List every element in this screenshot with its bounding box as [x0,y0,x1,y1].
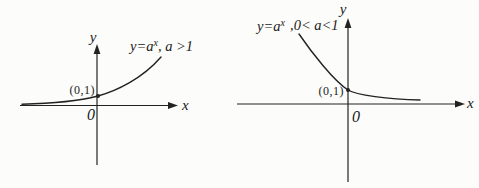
right-intercept-point [346,88,350,92]
left-y-axis-label: y [88,29,97,45]
left-x-axis-arrow-icon [168,102,178,109]
left-intercept-label: (0,1) [70,83,96,97]
right-origin-label: 0 [352,108,360,125]
right-x-axis-label: x [466,95,474,111]
figure-canvas: y x 0 (0,1) y=ax, a >1 y x 0 [0,0,479,188]
right-exp-decay-curve [299,34,420,100]
left-origin-label: 0 [87,106,95,123]
right-y-axis-label: y [338,1,347,17]
right-x-axis-arrow-icon [455,101,465,108]
left-exp-growth-curve [22,57,161,104]
right-y-axis-arrow-icon [345,18,352,28]
left-y-axis-arrow-icon [94,44,101,54]
right-curve-condition-label: ,0< a<1 [290,17,339,33]
right-intercept-label: (0,1) [319,84,345,98]
left-x-axis-label: x [181,97,189,113]
exponential-function-graphs-figure: y x 0 (0,1) y=ax, a >1 y x 0 [0,0,479,188]
left-curve-equation-label: y=ax, a >1 [128,37,193,54]
left-intercept-point [96,94,100,98]
right-graph-exponential-decay: y x 0 (0,1) y=ax ,0< a<1 [237,1,474,182]
left-graph-exponential-growth: y x 0 (0,1) y=ax, a >1 [20,29,193,165]
right-curve-equation-label: y=ax [255,17,285,34]
